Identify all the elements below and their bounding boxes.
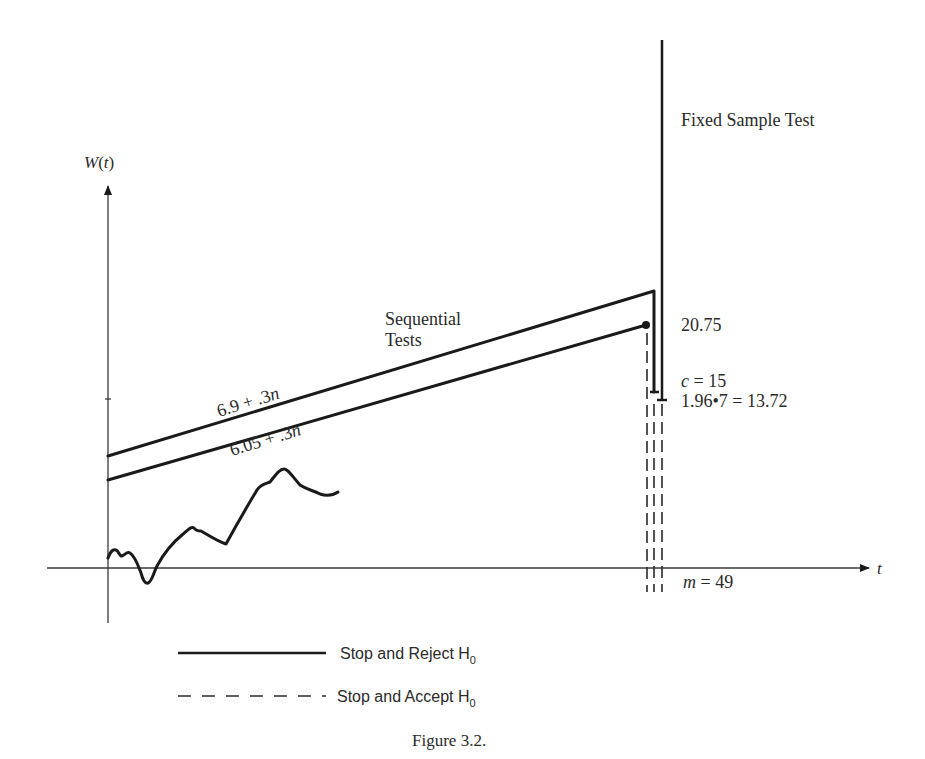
legend-accept-label: Stop and Accept H0 [337, 688, 476, 709]
sequential-test-diagram: W(t) t 6.9 + .3n 6.05 + .3n Sequential T… [0, 0, 925, 759]
x-axis-label: t [877, 559, 883, 578]
legend: Stop and Reject H0 Stop and Accept H0 [178, 645, 476, 709]
lower-boundary-label: 6.05 + .3n [227, 419, 303, 460]
fixed-sample-test-label: Fixed Sample Test [681, 110, 814, 130]
upper-end-value: 20.75 [681, 315, 722, 335]
legend-reject-label: Stop and Reject H0 [340, 645, 476, 666]
figure-caption: Figure 3.2. [412, 731, 486, 750]
legend-item-accept: Stop and Accept H0 [178, 688, 476, 709]
lower-boundary-line [108, 325, 646, 480]
random-walk-path [108, 469, 338, 583]
legend-item-reject: Stop and Reject H0 [178, 645, 476, 666]
upper-boundary-line [108, 291, 654, 456]
sequential-tests-label-line1: Sequential [385, 309, 461, 329]
y-axis-label: W(t) [84, 153, 114, 172]
sequential-tests-label-line2: Tests [385, 330, 422, 350]
fixed-threshold-label: 1.96•7 = 13.72 [681, 391, 787, 411]
lower-boundary-endpoint [642, 321, 650, 329]
c-value-label: c = 15 [681, 371, 726, 391]
m-value-label: m = 49 [683, 572, 733, 592]
